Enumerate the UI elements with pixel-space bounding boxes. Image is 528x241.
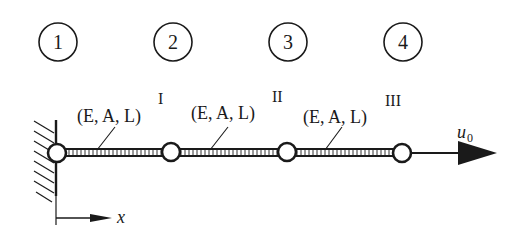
x-axis-label: x	[116, 207, 125, 227]
node-1	[48, 144, 66, 162]
leader-line-III	[325, 127, 342, 150]
bar-element-II	[177, 149, 281, 156]
node-3	[278, 143, 296, 161]
svg-text:3: 3	[283, 31, 293, 53]
svg-text:(E, A, L): (E, A, L)	[77, 106, 141, 127]
svg-text:2: 2	[168, 31, 178, 53]
leader-line-II	[210, 127, 228, 150]
displacement-label: u 0	[457, 122, 473, 145]
node-number-2: 2	[154, 23, 192, 61]
node-number-3: 3	[269, 23, 307, 61]
svg-text:1: 1	[53, 31, 63, 53]
node-2	[162, 143, 180, 161]
node-number-4: 4	[384, 23, 422, 61]
x-axis-arrow	[56, 214, 112, 222]
svg-text:4: 4	[398, 31, 408, 53]
svg-text:u: u	[457, 122, 466, 142]
bar-diagram: 1 2 3 4	[0, 0, 528, 241]
svg-text:I: I	[158, 90, 163, 107]
svg-text:III: III	[385, 92, 401, 109]
element-label-III: (E, A, L) III	[303, 92, 401, 128]
svg-text:II: II	[272, 88, 283, 105]
svg-text:(E, A, L): (E, A, L)	[303, 107, 367, 128]
svg-text:0: 0	[467, 131, 473, 145]
element-label-II: (E, A, L) II	[191, 88, 283, 124]
element-label-I: (E, A, L) I	[77, 90, 163, 127]
node-number-1: 1	[39, 23, 77, 61]
bar-element-III	[292, 149, 397, 156]
svg-text:(E, A, L): (E, A, L)	[191, 103, 255, 124]
leader-line-I	[97, 127, 115, 150]
node-4	[393, 144, 411, 162]
bar-element-I	[62, 149, 166, 156]
wall-support	[34, 120, 56, 225]
displacement-arrow	[411, 141, 497, 165]
